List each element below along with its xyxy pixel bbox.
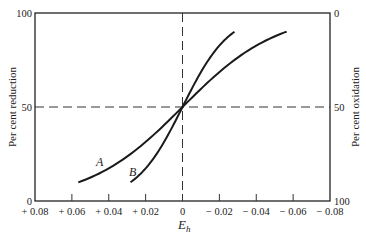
x-tick-label: + 0.02 — [132, 206, 159, 217]
y-right-tick-label: 100 — [334, 196, 350, 207]
y-left-tick-label: 0 — [27, 196, 32, 207]
y-right-tick-label: 50 — [334, 102, 345, 113]
y-axis-right-title: Per cent oxidation — [349, 66, 361, 147]
x-tick-label: + 0.06 — [58, 206, 85, 217]
x-tick-label: 0 — [180, 206, 185, 217]
y-axis-right-tick-labels: 100500 — [334, 8, 350, 207]
curve-label-a: A — [95, 155, 104, 169]
curve-label-b: B — [129, 165, 137, 179]
chart: + 0.08+ 0.06+ 0.04+ 0.020− 0.02− 0.04− 0… — [0, 0, 366, 237]
x-axis-ticks — [72, 194, 293, 201]
x-tick-label: − 0.04 — [243, 206, 271, 217]
x-axis-title-main: E — [177, 217, 186, 232]
y-axis-left-tick-labels: 050100 — [16, 8, 32, 207]
x-tick-label: − 0.02 — [206, 206, 233, 217]
y-right-tick-label: 0 — [334, 8, 339, 19]
y-left-tick-label: 50 — [22, 102, 33, 113]
x-tick-label: − 0.06 — [280, 206, 307, 217]
x-tick-label: + 0.04 — [95, 206, 123, 217]
x-axis-tick-labels: + 0.08+ 0.06+ 0.04+ 0.020− 0.02− 0.04− 0… — [22, 206, 344, 217]
x-axis-title: Eh — [177, 217, 191, 234]
y-left-tick-label: 100 — [16, 8, 32, 19]
y-axis-left-title: Per cent reduction — [6, 66, 18, 147]
x-tick-label: − 0.08 — [317, 206, 344, 217]
x-axis-title-subscript: h — [186, 224, 191, 234]
x-tick-label: + 0.08 — [22, 206, 49, 217]
